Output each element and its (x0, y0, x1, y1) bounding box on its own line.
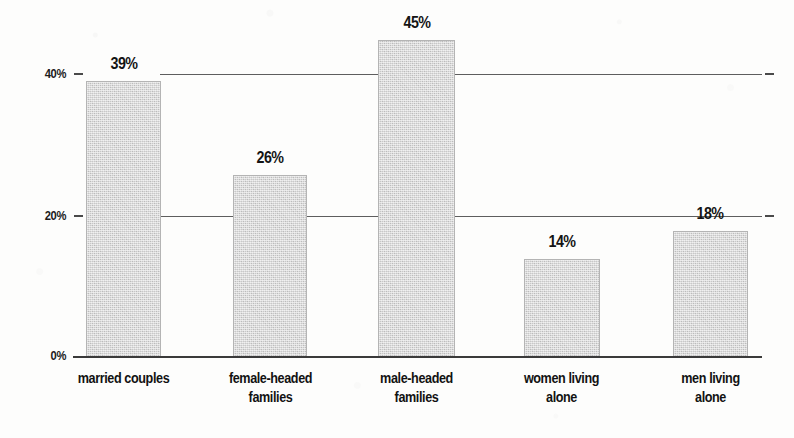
x-category-label-female-headed-families: female-headed families (209, 369, 332, 407)
x-category-label-women-living-alone: women living alone (500, 369, 623, 407)
bar-value-label-married-couples: 39% (86, 54, 162, 74)
bar-male-headed-families (378, 40, 455, 357)
bar-value-label-women-living-alone: 14% (524, 232, 600, 252)
bar-female-headed-families (233, 175, 307, 357)
plot-area: 40% 20% 0% 39% 26% 45% 14% 18% married c… (0, 0, 794, 438)
y-tick-mark-20 (74, 215, 83, 217)
bar-men-living-alone (673, 231, 748, 357)
y-tick-label-40: 40% (25, 66, 66, 81)
bar-value-label-female-headed-families: 26% (232, 148, 308, 168)
axis-baseline (73, 356, 762, 358)
x-category-label-men-living-alone: men living alone (649, 369, 772, 407)
bar-married-couples (86, 81, 161, 357)
y-tick-mark-40 (74, 73, 83, 75)
bar-women-living-alone (524, 259, 600, 357)
bar-value-label-men-living-alone: 18% (672, 204, 748, 224)
bar-value-label-male-headed-families: 45% (379, 13, 455, 33)
bar-chart: 40% 20% 0% 39% 26% 45% 14% 18% married c… (0, 0, 794, 438)
y-tick-mark-right-40 (765, 73, 774, 75)
y-tick-label-0: 0% (25, 348, 66, 363)
x-category-label-male-headed-families: male-headed families (355, 369, 478, 407)
y-tick-label-20: 20% (25, 208, 66, 223)
y-tick-mark-right-20 (765, 215, 774, 217)
x-category-label-married-couples: married couples (62, 369, 185, 388)
gridline-40 (160, 74, 762, 75)
